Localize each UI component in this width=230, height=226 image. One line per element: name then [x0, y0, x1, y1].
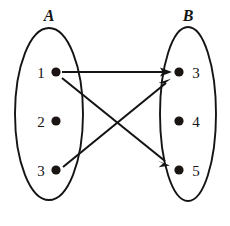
diagram-canvas: A B 1 2 3 3 4 [0, 0, 230, 226]
element-dot-b-5 [174, 165, 183, 174]
set-a-label: A [43, 7, 55, 24]
element-dot-a-2 [51, 116, 60, 125]
element-label-b-5: 5 [192, 163, 200, 179]
element-label-b-3: 3 [192, 65, 200, 81]
element-dot-b-3 [174, 67, 183, 76]
element-dot-b-4 [174, 116, 183, 125]
set-mapping-diagram: A B 1 2 3 3 4 [0, 0, 230, 226]
element-label-a-3: 3 [37, 163, 45, 179]
element-label-a-2: 2 [37, 114, 45, 130]
element-label-a-1: 1 [37, 65, 45, 81]
element-dot-a-1 [51, 67, 60, 76]
set-b-label: B [182, 7, 194, 24]
set-a-ellipse [15, 28, 83, 200]
element-label-b-4: 4 [192, 114, 200, 130]
element-dot-a-3 [51, 165, 60, 174]
set-b-ellipse [160, 27, 216, 201]
